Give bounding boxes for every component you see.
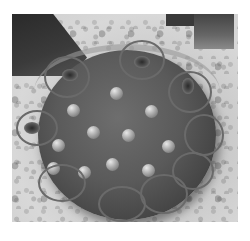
highlight-circle	[140, 174, 188, 214]
carbide-button	[52, 139, 65, 152]
carbide-button	[67, 104, 80, 117]
drill-bit-photo	[12, 14, 238, 222]
highlight-circle	[44, 56, 90, 98]
carbide-button	[122, 129, 135, 142]
highlight-circle	[98, 186, 146, 222]
highlight-circle	[184, 114, 224, 156]
carbide-button	[87, 126, 100, 139]
highlight-circle	[119, 40, 165, 80]
highlight-circle	[38, 164, 86, 202]
carbide-button	[145, 105, 158, 118]
carbide-button	[162, 140, 175, 153]
background-block	[194, 14, 234, 49]
highlight-circle	[168, 71, 212, 113]
dark-background-object	[166, 14, 194, 26]
carbide-button	[110, 87, 123, 100]
highlight-circle	[16, 110, 58, 146]
carbide-button	[106, 158, 119, 171]
